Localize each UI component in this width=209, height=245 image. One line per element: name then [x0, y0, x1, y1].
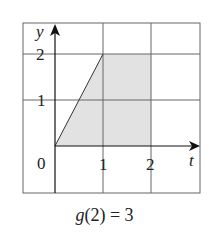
caption: g(2) = 3 — [0, 205, 209, 226]
y-tick-2: 2 — [36, 45, 45, 64]
y-tick-1: 1 — [37, 91, 46, 110]
x-tick-1: 1 — [99, 155, 108, 174]
caption-arg: (2) — [84, 205, 105, 225]
origin-label: 0 — [37, 154, 46, 173]
y-axis-label: y — [34, 22, 44, 41]
caption-rest: = 3 — [105, 205, 133, 225]
t-axis-label: t — [189, 151, 195, 170]
x-tick-2: 2 — [146, 155, 155, 174]
